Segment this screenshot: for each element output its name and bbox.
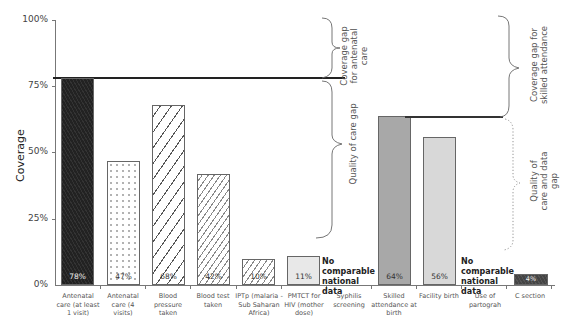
annotation-quality-of-care-gap: Quality of care gap bbox=[348, 89, 362, 199]
annotation-quality-data-gap: Quality of care and data gap bbox=[529, 141, 555, 221]
annotation-coverage-gap-skilled: Coverage gap for skilled attendance bbox=[529, 15, 555, 115]
annotation-braces bbox=[0, 0, 569, 324]
annotation-coverage-gap-antenatal: Coverage gap for antenatal care bbox=[339, 21, 371, 91]
